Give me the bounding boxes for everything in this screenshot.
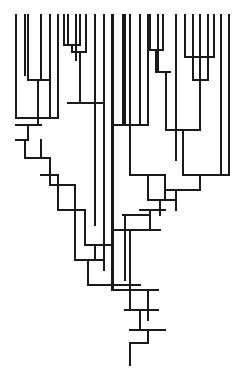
dendrogram-canvas bbox=[0, 0, 243, 379]
dendrogram-tree bbox=[0, 0, 243, 379]
